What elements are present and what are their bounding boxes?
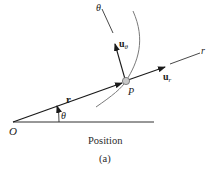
u-theta-label: uθ — [119, 39, 128, 51]
theta-angle-label: θ — [61, 111, 66, 121]
theta-axis-label: θ — [96, 3, 101, 13]
theta-angle-arc — [57, 106, 59, 122]
u-r-label: ur — [163, 72, 171, 84]
r-axis-line — [170, 53, 200, 64]
position-vector-label: r — [66, 94, 71, 105]
u-r-unit-vector-arrow — [128, 67, 165, 80]
caption-sub-label: (a) — [99, 154, 111, 165]
u-theta-subscript: θ — [125, 43, 128, 51]
point-p-label: P — [128, 87, 134, 97]
origin-label: O — [9, 126, 17, 137]
r-axis-label: r — [201, 46, 205, 56]
caption-position: Position — [88, 136, 122, 147]
particle-p — [122, 77, 129, 84]
polar-coordinates-diagram — [0, 0, 211, 177]
u-r-subscript: r — [169, 76, 172, 84]
theta-axis-line — [102, 9, 113, 33]
